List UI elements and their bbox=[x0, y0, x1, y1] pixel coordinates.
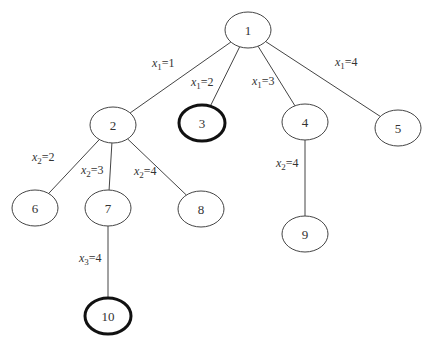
node-label: 4 bbox=[302, 115, 309, 130]
edge-label-1-2: x1=1 bbox=[151, 56, 175, 72]
edge-label-1-5: x1=4 bbox=[334, 55, 358, 71]
node-label: 2 bbox=[110, 118, 117, 133]
node-4: 4 bbox=[282, 104, 328, 140]
node-label: 10 bbox=[102, 309, 115, 324]
edge-1-3 bbox=[210, 47, 239, 106]
node-2: 2 bbox=[90, 107, 136, 143]
node-5: 5 bbox=[375, 110, 421, 146]
tree-nodes: 12345678910 bbox=[12, 12, 421, 334]
edge-label-1-3: x1=2 bbox=[190, 75, 214, 91]
edge-label-2-8: x2=4 bbox=[133, 164, 157, 180]
node-8: 8 bbox=[178, 191, 224, 227]
search-tree-diagram: x1=1x1=2x1=3x1=4x2=2x2=3x2=4x2=4x3=4 123… bbox=[0, 0, 431, 347]
node-6: 6 bbox=[12, 190, 58, 226]
edge-2-7 bbox=[109, 143, 112, 190]
node-label: 8 bbox=[198, 202, 205, 217]
edge-label-2-7: x2=3 bbox=[80, 163, 104, 179]
node-7: 7 bbox=[85, 190, 131, 226]
node-label: 7 bbox=[105, 201, 112, 216]
edge-label-2-6: x2=2 bbox=[31, 150, 55, 166]
edge-1-2 bbox=[130, 42, 231, 113]
node-label: 9 bbox=[302, 227, 309, 242]
node-label: 5 bbox=[395, 121, 402, 136]
node-3: 3 bbox=[179, 105, 225, 141]
edge-1-5 bbox=[266, 42, 381, 117]
node-label: 3 bbox=[199, 116, 206, 131]
node-9: 9 bbox=[282, 216, 328, 252]
node-label: 6 bbox=[32, 201, 39, 216]
edge-label-7-10: x3=4 bbox=[78, 251, 102, 267]
node-1: 1 bbox=[225, 12, 271, 48]
node-10: 10 bbox=[85, 298, 131, 334]
edge-label-4-9: x2=4 bbox=[275, 156, 299, 172]
edge-label-1-4: x1=3 bbox=[251, 74, 275, 90]
node-label: 1 bbox=[245, 23, 252, 38]
